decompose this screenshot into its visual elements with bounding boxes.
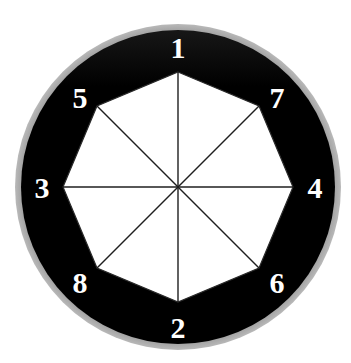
vertex-label-2: 2 [171,311,186,344]
vertex-label-8: 8 [73,266,88,299]
vertex-label-6: 6 [270,266,285,299]
spoke-group [63,72,293,302]
vertex-label-7: 7 [270,81,285,114]
vertex-label-5: 5 [73,81,88,114]
diagram-canvas: 1 7 4 6 2 8 3 5 [0,0,351,363]
vertex-label-4: 4 [308,171,323,204]
octagon-wheel-figure: 1 7 4 6 2 8 3 5 [0,0,351,363]
vertex-label-3: 3 [35,171,50,204]
vertex-label-1: 1 [171,31,186,64]
